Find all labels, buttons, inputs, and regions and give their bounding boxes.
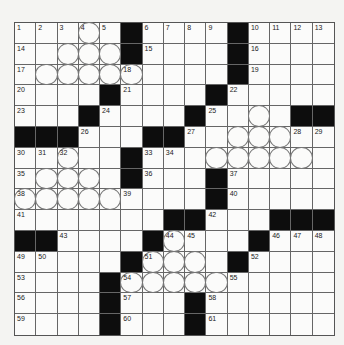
grid-cell[interactable]: 29 — [313, 127, 334, 148]
grid-cell[interactable]: 9 — [206, 23, 227, 44]
grid-cell[interactable] — [36, 293, 57, 314]
grid-cell[interactable] — [313, 252, 334, 273]
grid-cell[interactable] — [100, 44, 121, 65]
grid-cell[interactable]: 57 — [121, 293, 142, 314]
grid-cell[interactable] — [185, 273, 206, 294]
grid-cell[interactable] — [79, 314, 100, 335]
grid-cell[interactable] — [143, 106, 164, 127]
grid-cell[interactable] — [79, 148, 100, 169]
grid-cell[interactable] — [206, 231, 227, 252]
grid-cell[interactable] — [228, 293, 249, 314]
grid-cell[interactable] — [313, 189, 334, 210]
grid-cell[interactable] — [58, 189, 79, 210]
grid-cell[interactable] — [228, 106, 249, 127]
grid-cell[interactable] — [270, 148, 291, 169]
grid-cell[interactable] — [79, 231, 100, 252]
grid-cell[interactable]: 10 — [249, 23, 270, 44]
grid-cell[interactable] — [185, 148, 206, 169]
grid-cell[interactable]: 21 — [121, 85, 142, 106]
grid-cell[interactable] — [164, 273, 185, 294]
grid-cell[interactable]: 36 — [143, 169, 164, 190]
grid-cell[interactable] — [164, 293, 185, 314]
grid-cell[interactable] — [36, 169, 57, 190]
grid-cell[interactable]: 35 — [15, 169, 36, 190]
grid-cell[interactable] — [313, 273, 334, 294]
grid-cell[interactable] — [185, 252, 206, 273]
grid-cell[interactable] — [228, 210, 249, 231]
grid-cell[interactable]: 30 — [15, 148, 36, 169]
grid-cell[interactable] — [164, 169, 185, 190]
grid-cell[interactable] — [249, 106, 270, 127]
grid-cell[interactable]: 25 — [206, 106, 227, 127]
grid-cell[interactable] — [121, 210, 142, 231]
grid-cell[interactable] — [164, 252, 185, 273]
grid-cell[interactable] — [249, 273, 270, 294]
grid-cell[interactable] — [100, 127, 121, 148]
grid-cell[interactable] — [270, 169, 291, 190]
grid-cell[interactable]: 47 — [291, 231, 312, 252]
grid-cell[interactable]: 42 — [206, 210, 227, 231]
grid-cell[interactable] — [58, 314, 79, 335]
grid-cell[interactable] — [121, 231, 142, 252]
grid-cell[interactable] — [58, 65, 79, 86]
grid-cell[interactable] — [206, 252, 227, 273]
grid-cell[interactable]: 38 — [15, 189, 36, 210]
grid-cell[interactable]: 55 — [228, 273, 249, 294]
grid-cell[interactable]: 11 — [270, 23, 291, 44]
grid-cell[interactable] — [143, 189, 164, 210]
grid-cell[interactable] — [206, 148, 227, 169]
grid-cell[interactable]: 60 — [121, 314, 142, 335]
grid-cell[interactable]: 3 — [58, 23, 79, 44]
grid-cell[interactable]: 50 — [36, 252, 57, 273]
grid-cell[interactable] — [58, 273, 79, 294]
grid-cell[interactable]: 12 — [291, 23, 312, 44]
grid-cell[interactable] — [249, 293, 270, 314]
grid-cell[interactable] — [58, 210, 79, 231]
grid-cell[interactable]: 18 — [121, 65, 142, 86]
grid-cell[interactable] — [185, 189, 206, 210]
grid-cell[interactable] — [185, 85, 206, 106]
grid-cell[interactable] — [58, 44, 79, 65]
grid-cell[interactable]: 37 — [228, 169, 249, 190]
grid-cell[interactable] — [228, 148, 249, 169]
grid-cell[interactable] — [270, 65, 291, 86]
grid-cell[interactable]: 46 — [270, 231, 291, 252]
grid-cell[interactable] — [206, 127, 227, 148]
grid-cell[interactable]: 44 — [164, 231, 185, 252]
grid-cell[interactable] — [185, 169, 206, 190]
grid-cell[interactable] — [291, 85, 312, 106]
grid-cell[interactable]: 51 — [143, 252, 164, 273]
grid-cell[interactable]: 22 — [228, 85, 249, 106]
grid-cell[interactable] — [100, 189, 121, 210]
grid-cell[interactable]: 58 — [206, 293, 227, 314]
grid-cell[interactable] — [291, 44, 312, 65]
grid-cell[interactable] — [100, 252, 121, 273]
grid-cell[interactable] — [143, 273, 164, 294]
grid-cell[interactable]: 48 — [313, 231, 334, 252]
grid-cell[interactable]: 2 — [36, 23, 57, 44]
grid-cell[interactable] — [79, 293, 100, 314]
grid-cell[interactable] — [100, 210, 121, 231]
grid-cell[interactable] — [249, 169, 270, 190]
grid-cell[interactable] — [270, 85, 291, 106]
grid-cell[interactable] — [249, 85, 270, 106]
grid-cell[interactable]: 28 — [291, 127, 312, 148]
grid-cell[interactable] — [143, 314, 164, 335]
grid-cell[interactable] — [100, 231, 121, 252]
grid-cell[interactable] — [249, 127, 270, 148]
grid-cell[interactable]: 54 — [121, 273, 142, 294]
grid-cell[interactable] — [164, 106, 185, 127]
grid-cell[interactable] — [79, 189, 100, 210]
grid-cell[interactable]: 45 — [185, 231, 206, 252]
grid-cell[interactable] — [206, 65, 227, 86]
grid-cell[interactable] — [185, 65, 206, 86]
grid-cell[interactable] — [228, 231, 249, 252]
grid-cell[interactable]: 6 — [143, 23, 164, 44]
grid-cell[interactable] — [143, 210, 164, 231]
grid-cell[interactable]: 40 — [228, 189, 249, 210]
grid-cell[interactable]: 14 — [15, 44, 36, 65]
grid-cell[interactable] — [313, 85, 334, 106]
grid-cell[interactable]: 59 — [15, 314, 36, 335]
grid-cell[interactable] — [164, 189, 185, 210]
grid-cell[interactable] — [164, 85, 185, 106]
